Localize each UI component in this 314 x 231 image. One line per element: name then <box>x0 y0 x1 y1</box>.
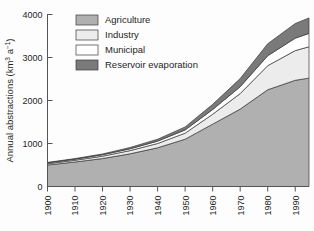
plot-area <box>48 18 310 187</box>
x-tick-label: 1930 <box>125 196 135 216</box>
x-tick-label: 1980 <box>263 196 273 216</box>
x-tick-label: 1900 <box>43 196 53 216</box>
y-axis-label: Annual abstractions (km3 a−1) <box>4 38 15 162</box>
y-tick-label: 2000 <box>22 96 42 106</box>
chart-legend: AgricultureIndustryMunicipalReservoir ev… <box>76 14 198 70</box>
x-tick-label: 1950 <box>181 196 191 216</box>
y-tick-label: 0 <box>37 182 42 192</box>
legend-swatch-industry <box>76 30 98 40</box>
chart-figure: 1900191019201930194019501960197019801990… <box>0 0 314 231</box>
legend-swatch-reservoir-evaporation <box>76 60 98 70</box>
y-axis-label-text: Annual abstractions (km3 a−1) <box>4 38 15 162</box>
legend-swatch-municipal <box>76 45 98 55</box>
x-tick-label: 1920 <box>98 196 108 216</box>
y-tick-label: 3000 <box>22 53 42 63</box>
legend-label-reservoir-evaporation: Reservoir evaporation <box>105 59 198 70</box>
stacked-area-chart: 1900191019201930194019501960197019801990… <box>0 0 314 231</box>
x-tick-label: 1960 <box>208 196 218 216</box>
legend-label-agriculture: Agriculture <box>105 14 150 25</box>
legend-label-municipal: Municipal <box>105 44 145 55</box>
x-axis-ticks: 1900191019201930194019501960197019801990 <box>43 187 301 216</box>
x-tick-label: 1970 <box>236 196 246 216</box>
y-tick-label: 4000 <box>22 10 42 20</box>
legend-label-industry: Industry <box>105 29 139 40</box>
x-tick-label: 1910 <box>70 196 80 216</box>
x-tick-label: 1990 <box>291 196 301 216</box>
legend-swatch-agriculture <box>76 15 98 25</box>
x-tick-label: 1940 <box>153 196 163 216</box>
y-tick-label: 1000 <box>22 139 42 149</box>
